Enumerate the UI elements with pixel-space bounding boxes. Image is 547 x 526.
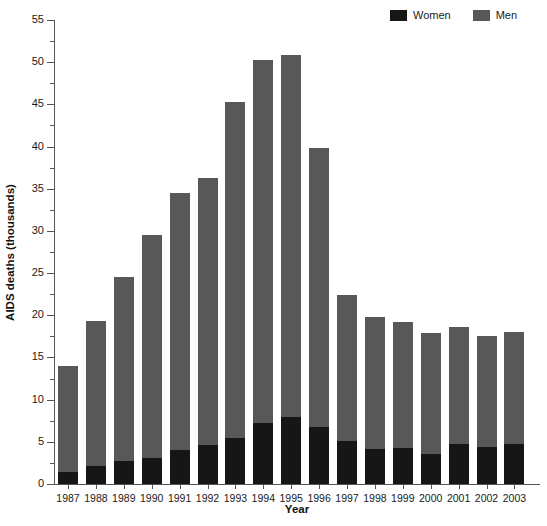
x-axis-title: Year (54, 503, 540, 515)
bar-1993[interactable] (225, 102, 245, 484)
bar-1994[interactable] (253, 60, 273, 484)
bar-2000[interactable] (421, 333, 441, 484)
y-tick-mark (47, 231, 54, 232)
x-tick-mark (68, 485, 69, 489)
bar-segment-men[interactable] (477, 336, 497, 447)
y-tick-mark (47, 400, 54, 401)
y-tick-mark (47, 484, 54, 485)
bar-2002[interactable] (477, 336, 497, 484)
bar-segment-men[interactable] (365, 317, 385, 449)
y-tick-label: 0 (38, 478, 44, 489)
y-tick-label: 15 (32, 351, 44, 362)
y-tick-label: 5 (38, 436, 44, 447)
x-tick-mark (235, 485, 236, 489)
bar-segment-men[interactable] (58, 366, 78, 472)
x-tick-mark (96, 485, 97, 489)
x-tick-mark (459, 485, 460, 489)
y-tick-label: 20 (32, 309, 44, 320)
bar-1990[interactable] (142, 235, 162, 484)
y-tick-label: 25 (32, 267, 44, 278)
bar-segment-men[interactable] (421, 333, 441, 454)
x-tick-mark (263, 485, 264, 489)
bar-1988[interactable] (86, 321, 106, 484)
bar-segment-men[interactable] (142, 235, 162, 458)
y-tick-mark (47, 273, 54, 274)
x-tick-mark (431, 485, 432, 489)
bar-1992[interactable] (198, 178, 218, 484)
y-tick-mark (47, 315, 54, 316)
y-tick-mark (47, 20, 54, 21)
bar-1997[interactable] (337, 295, 357, 484)
chart-figure: Women Men 0510152025303540455055 1987198… (0, 0, 547, 526)
bar-segment-men[interactable] (198, 178, 218, 445)
x-tick-mark (347, 485, 348, 489)
bar-segment-men[interactable] (504, 332, 524, 443)
y-tick-label: 35 (32, 183, 44, 194)
bar-segment-women[interactable] (114, 461, 134, 484)
y-tick-mark (47, 147, 54, 148)
bar-segment-men[interactable] (449, 327, 469, 444)
bar-segment-women[interactable] (225, 438, 245, 484)
y-tick-label: 55 (32, 14, 44, 25)
x-tick-mark (291, 485, 292, 489)
bar-segment-men[interactable] (253, 60, 273, 424)
bar-segment-women[interactable] (170, 450, 190, 484)
bar-1999[interactable] (393, 322, 413, 484)
bar-1996[interactable] (309, 148, 329, 484)
bar-segment-women[interactable] (281, 417, 301, 484)
x-tick-mark (514, 485, 515, 489)
bar-2003[interactable] (504, 332, 524, 484)
y-tick-mark (47, 62, 54, 63)
x-tick-mark (180, 485, 181, 489)
bar-segment-men[interactable] (86, 321, 106, 466)
plot-area: 0510152025303540455055 19871988198919901… (54, 20, 540, 485)
y-tick-label: 50 (32, 56, 44, 67)
bar-segment-women[interactable] (421, 454, 441, 484)
bar-segment-women[interactable] (477, 447, 497, 484)
bar-2001[interactable] (449, 327, 469, 484)
bar-segment-men[interactable] (393, 322, 413, 448)
x-tick-mark (124, 485, 125, 489)
y-tick-label: 10 (32, 394, 44, 405)
x-tick-mark (487, 485, 488, 489)
bar-segment-women[interactable] (253, 423, 273, 484)
bar-segment-women[interactable] (309, 427, 329, 484)
y-tick-label: 40 (32, 141, 44, 152)
bar-segment-women[interactable] (393, 448, 413, 484)
y-tick-mark (47, 104, 54, 105)
bar-segment-men[interactable] (337, 295, 357, 441)
y-tick-mark (47, 442, 54, 443)
bar-segment-women[interactable] (86, 466, 106, 484)
x-tick-mark (403, 485, 404, 489)
x-tick-mark (208, 485, 209, 489)
bar-segment-men[interactable] (309, 148, 329, 426)
x-tick-mark (152, 485, 153, 489)
bar-segment-women[interactable] (504, 444, 524, 484)
bar-segment-men[interactable] (281, 55, 301, 417)
bar-segment-men[interactable] (114, 277, 134, 461)
bar-segment-men[interactable] (170, 193, 190, 450)
y-axis-title: AIDS deaths (thousands) (2, 20, 18, 485)
bars-container (54, 20, 540, 485)
bar-1989[interactable] (114, 277, 134, 484)
bar-segment-women[interactable] (142, 458, 162, 484)
bar-segment-men[interactable] (225, 102, 245, 438)
bar-1998[interactable] (365, 317, 385, 484)
y-tick-mark (47, 357, 54, 358)
y-tick-label: 30 (32, 225, 44, 236)
bar-segment-women[interactable] (198, 445, 218, 484)
bar-segment-women[interactable] (58, 472, 78, 484)
bar-1995[interactable] (281, 55, 301, 484)
bar-segment-women[interactable] (365, 449, 385, 484)
y-tick-mark (47, 189, 54, 190)
bar-segment-women[interactable] (337, 441, 357, 484)
bar-1991[interactable] (170, 193, 190, 484)
x-tick-mark (319, 485, 320, 489)
y-tick-label: 45 (32, 98, 44, 109)
bar-segment-women[interactable] (449, 444, 469, 484)
x-tick-mark (375, 485, 376, 489)
bar-1987[interactable] (58, 366, 78, 484)
